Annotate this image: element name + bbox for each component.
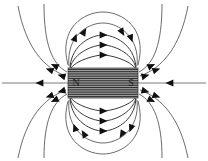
bar-magnet-group: N S xyxy=(68,68,138,98)
south-pole-label: S xyxy=(128,77,134,88)
north-pole-label: N xyxy=(72,77,79,88)
magnetic-field-figure: N S xyxy=(0,0,208,161)
field-line-diagram: N S xyxy=(0,0,208,161)
